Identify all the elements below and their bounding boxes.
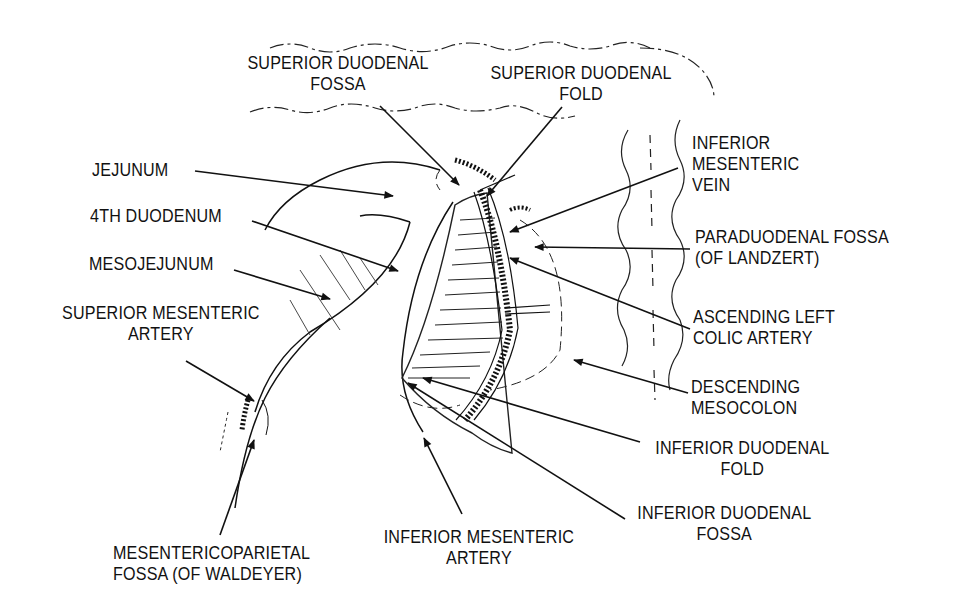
label-superior-duodenal-fold: SUPERIOR DUODENAL FOLD [489, 63, 673, 105]
label-superior-mesenteric-artery: SUPERIOR MESENTERIC ARTERY [55, 303, 267, 345]
label-inferior-duodenal-fold: INFERIOR DUODENAL FOLD [648, 438, 837, 480]
label-descending-mesocolon: DESCENDING MESOCOLON [691, 377, 800, 419]
label-mesojejunum: MESOJEJUNUM [89, 254, 214, 275]
label-mesentericoparietal-fossa: MESENTERICOPARIETAL FOSSA (OF WALDEYER) [113, 543, 310, 585]
label-paraduodenal-fossa: PARADUODENAL FOSSA (OF LANDZERT) [695, 227, 889, 269]
label-inferior-mesenteric-artery: INFERIOR MESENTERIC ARTERY [380, 527, 578, 569]
descending-colon-outline [617, 120, 684, 400]
label-jejunum: JEJUNUM [92, 160, 168, 181]
label-inferior-duodenal-fossa: INFERIOR DUODENAL FOSSA [630, 503, 819, 545]
label-inferior-mesenteric-vein: INFERIOR MESENTERIC VEIN [692, 133, 799, 196]
label-superior-duodenal-fossa: SUPERIOR DUODENAL FOSSA [246, 53, 430, 95]
label-ascending-left-colic-artery: ASCENDING LEFT COLIC ARTERY [693, 307, 835, 349]
inferior-mesenteric-vessels [455, 160, 550, 420]
label-4th-duodenum: 4TH DUODENUM [90, 206, 222, 227]
fossa-outlines [400, 170, 562, 408]
